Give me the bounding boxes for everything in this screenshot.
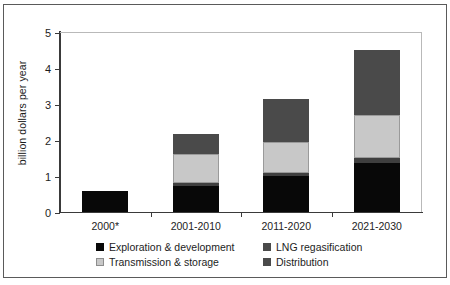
y-axis-tick [55, 141, 60, 142]
bar-segment [173, 183, 219, 186]
bar-segment [354, 158, 400, 163]
bar-segment [173, 134, 219, 155]
legend-item-label: LNG regasification [276, 241, 362, 253]
bar-segment [263, 176, 309, 212]
legend-swatch-icon [263, 258, 271, 266]
bar-segment [263, 99, 309, 141]
legend-item: LNG regasification [263, 241, 413, 253]
y-axis-tick [55, 213, 60, 214]
y-axis-tick [55, 105, 60, 106]
legend-swatch-icon [96, 258, 104, 266]
bar-2000 [82, 191, 128, 212]
plot-area: 0123452000*2001-20102011-20202021-2030 [60, 32, 422, 212]
y-axis-tick-label: 0 [45, 207, 51, 219]
y-axis-tick [55, 69, 60, 70]
y-axis-tick-label: 5 [45, 27, 51, 39]
legend-swatch-icon [96, 243, 104, 251]
y-axis-title: billion dollars per year [16, 33, 28, 193]
x-axis-tick [241, 212, 242, 217]
legend-swatch-icon [263, 243, 271, 251]
y-axis-tick-label: 1 [45, 171, 51, 183]
bar-segment [354, 115, 400, 158]
y-axis-tick [55, 177, 60, 178]
y-axis-tick-label: 4 [45, 63, 51, 75]
x-axis-tick-label: 2001-2010 [171, 220, 221, 232]
figure: billion dollars per year 0123452000*2001… [0, 0, 450, 285]
bar-segment [82, 191, 128, 212]
x-axis-tick [151, 212, 152, 217]
legend-item: Distribution [263, 256, 413, 268]
legend-item-label: Transmission & storage [109, 256, 219, 268]
bar-segment [354, 50, 400, 115]
chart-frame: billion dollars per year 0123452000*2001… [3, 4, 447, 278]
x-axis-tick-label: 2021-2030 [352, 220, 402, 232]
y-axis-tick [55, 33, 60, 34]
bar-2001-2010 [173, 134, 219, 212]
bar-segment [173, 154, 219, 183]
bar-2021-2030 [354, 50, 400, 212]
bar-segment [263, 173, 309, 176]
legend-item: Transmission & storage [96, 256, 263, 268]
x-axis-tick [332, 212, 333, 217]
chart-legend: Exploration & developmentLNG regasificat… [96, 239, 396, 269]
bar-2011-2020 [263, 99, 309, 212]
legend-item: Exploration & development [96, 241, 263, 253]
legend-item-label: Distribution [276, 256, 329, 268]
bar-segment [354, 163, 400, 212]
y-axis-tick-label: 3 [45, 99, 51, 111]
bar-segment [173, 186, 219, 212]
bar-segment [263, 142, 309, 173]
legend-item-label: Exploration & development [109, 241, 235, 253]
x-axis-tick-label: 2011-2020 [262, 220, 311, 232]
y-axis-tick-label: 2 [45, 135, 51, 147]
x-axis-tick-label: 2000* [92, 220, 119, 232]
